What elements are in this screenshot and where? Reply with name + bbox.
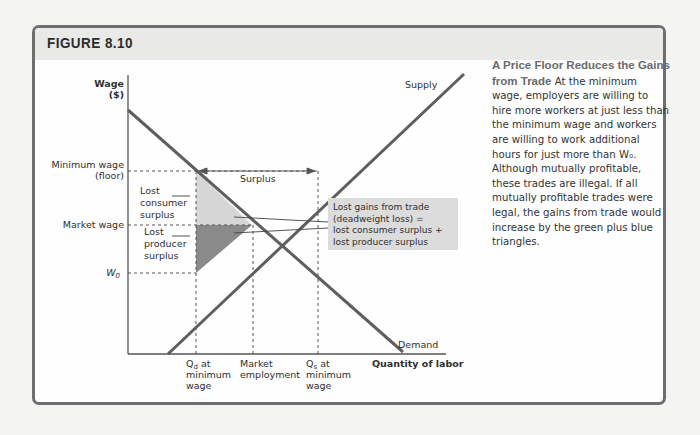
x-axis-title: Quantity of labor (372, 358, 464, 369)
qd-label-2: minimum (186, 369, 231, 380)
market-wage-label: Market wage (63, 219, 124, 230)
demand-label: Demand (398, 339, 438, 350)
lost-ps-line2: producer (144, 238, 187, 249)
callout-line-1: Lost gains from trade (333, 202, 453, 214)
qs-label-2: minimum (306, 369, 351, 380)
w0-label: W0 (106, 267, 120, 280)
min-wage-floor-label: (floor) (95, 170, 124, 181)
caption-body: At the minimum wage, employers are willi… (492, 76, 669, 248)
deadweight-loss-callout: Lost gains from trade (deadweight loss) … (328, 198, 458, 250)
supply-label: Supply (405, 79, 438, 90)
surplus-label: Surplus (240, 173, 276, 184)
market-employment-1: Market (240, 358, 273, 369)
lost-ps-line3: surplus (144, 250, 179, 261)
lost-cs-line3: surplus (140, 209, 175, 220)
callout-line-2: (deadweight loss) = (333, 214, 453, 226)
market-employment-2: employment (240, 369, 300, 380)
qd-label-3: wage (186, 380, 212, 391)
qs-label-3: wage (306, 380, 332, 391)
figure-caption: A Price Floor Reduces the Gains from Tra… (492, 58, 670, 250)
y-axis-title: Wage (94, 78, 124, 89)
callout-line-3: lost consumer surplus + (333, 225, 453, 237)
lost-cs-line1: Lost (140, 185, 160, 196)
lost-cs-line2: consumer (140, 197, 187, 208)
min-wage-label: Minimum wage (51, 159, 124, 170)
y-axis-unit: ($) (109, 89, 124, 100)
lost-ps-line1: Lost (144, 226, 164, 237)
callout-line-4: lost producer surplus (333, 237, 453, 249)
